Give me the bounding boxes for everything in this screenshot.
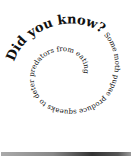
bottom-bar — [1, 152, 131, 156]
spiral-title: Did you know? — [3, 12, 109, 64]
spiral-text-graphic: Did you know? Some moth pupae produce sq… — [0, 0, 132, 140]
spiral-text: Did you know? Some moth pupae produce sq… — [0, 0, 121, 116]
